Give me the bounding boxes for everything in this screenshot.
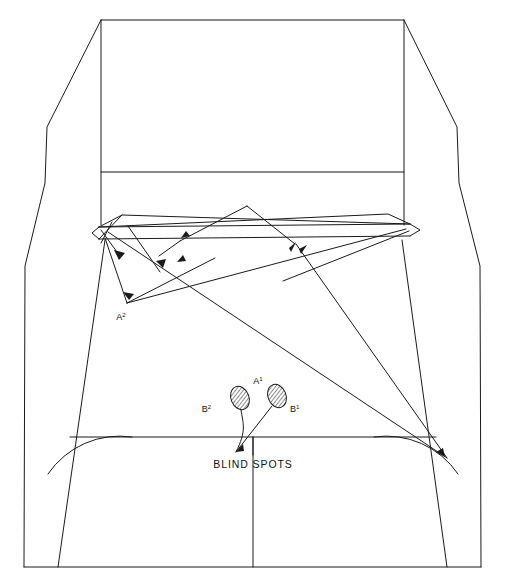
blind-spot-ellipse-left	[227, 384, 253, 413]
label-a1: A1	[253, 376, 263, 387]
blind-spot-ellipse-right	[264, 382, 290, 411]
mirror-band	[92, 214, 420, 239]
diagram-canvas: A1 A2 B1 B2 BLIND SPOTS	[0, 0, 505, 576]
windshield-panel	[101, 20, 404, 225]
blind-spots-diagram: A1 A2 B1 B2 BLIND SPOTS	[0, 0, 505, 576]
leader-arrowhead	[236, 444, 244, 452]
ray-paths	[101, 206, 447, 458]
blind-spot-markers	[227, 382, 290, 455]
label-b2: B2	[202, 404, 212, 415]
label-a2: A2	[116, 312, 126, 323]
label-blind-spots: BLIND SPOTS	[213, 458, 292, 470]
label-b1: B1	[290, 404, 300, 415]
floor-and-arcs	[48, 436, 458, 567]
